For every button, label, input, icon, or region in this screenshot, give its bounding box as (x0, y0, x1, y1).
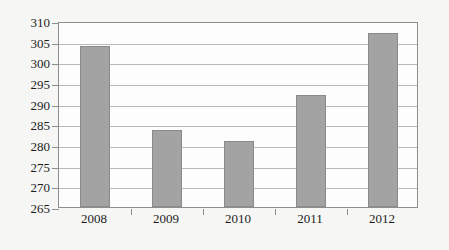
y-axis-tick (52, 147, 59, 148)
bar (80, 46, 110, 207)
x-axis-tick (203, 209, 204, 215)
y-axis-tick (52, 85, 59, 86)
y-axis-tick (52, 126, 59, 127)
y-axis-tick (52, 23, 59, 24)
gridline (59, 44, 417, 45)
y-axis-tick-label: 310 (10, 16, 50, 29)
y-axis-tick (52, 44, 59, 45)
bar (296, 95, 326, 207)
y-axis-tick (52, 168, 59, 169)
x-axis-tick (347, 209, 348, 215)
x-axis-tick (131, 209, 132, 215)
y-axis-tick-label: 265 (10, 202, 50, 215)
x-axis-tick (275, 209, 276, 215)
bar-chart: 265270275280285290295300305310 200820092… (0, 0, 449, 250)
plot-area (58, 22, 418, 208)
x-axis-tick-label: 2008 (81, 212, 107, 225)
y-axis-labels: 265270275280285290295300305310 (8, 22, 50, 208)
y-axis-tick-label: 285 (10, 119, 50, 132)
y-axis-tick-label: 305 (10, 36, 50, 49)
y-axis-tick-label: 295 (10, 78, 50, 91)
x-axis-tick-label: 2010 (225, 212, 251, 225)
y-axis-tick (52, 64, 59, 65)
gridline (59, 126, 417, 127)
gridline (59, 106, 417, 107)
y-axis-tick-label: 290 (10, 98, 50, 111)
gridline (59, 85, 417, 86)
y-axis-tick-label: 300 (10, 57, 50, 70)
bar (152, 130, 182, 207)
y-axis-tick-label: 275 (10, 160, 50, 173)
x-axis-tick-label: 2012 (369, 212, 395, 225)
y-axis-tick (52, 209, 59, 210)
gridline (59, 64, 417, 65)
y-axis-tick (52, 188, 59, 189)
y-axis-tick-label: 270 (10, 181, 50, 194)
x-axis-tick-label: 2009 (153, 212, 179, 225)
bar (368, 33, 398, 207)
bar (224, 141, 254, 207)
x-axis-tick-label: 2011 (297, 212, 323, 225)
y-axis-tick (52, 106, 59, 107)
y-axis-tick-label: 280 (10, 140, 50, 153)
